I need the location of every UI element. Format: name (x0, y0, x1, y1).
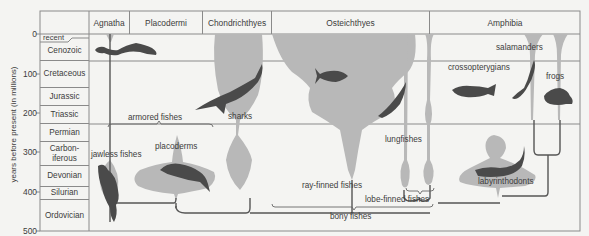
y-tick-400: 400 (23, 188, 37, 196)
group-chondrichthyes: Chondrichthyes (203, 11, 272, 34)
label-ray-finned-fishes: ray-finned fishes (302, 182, 362, 190)
y-tick-100: 100 (23, 70, 37, 78)
period-devonian: Devonian (40, 166, 89, 187)
label-lungfishes: lungfishes (385, 136, 422, 144)
label-bony-fishes: bony fishes (330, 213, 371, 221)
y-axis-label: years before present (in millions) (9, 50, 18, 200)
y-tick-500: 500 (23, 227, 37, 235)
period-jurassic: Jurassic (40, 88, 89, 106)
period-carboniferous: Carbon- iferous (40, 142, 89, 166)
label-jawless-fishes: jawless fishes (91, 151, 142, 159)
period-silurian: Silurian (40, 187, 89, 200)
y-tick-300: 300 (23, 148, 37, 156)
group-amphibia: Amphibia (430, 11, 580, 34)
period-triassic: Triassic (40, 106, 89, 124)
y-tick-0: 0 (32, 30, 37, 38)
frog-icon (544, 88, 573, 105)
crossopterygian-icon (452, 84, 496, 97)
period-ordovician: Ordovician (40, 200, 89, 231)
group-agnatha: Agnatha (89, 11, 130, 34)
label-lobe-finned-fishes: lobe-finned fishes (365, 196, 429, 204)
label-sharks: sharks (228, 113, 252, 121)
label-labyrinthodonts: labyrinthodonts (478, 178, 534, 186)
period-cretaceous: Cretaceous (40, 61, 89, 88)
label-frogs: frogs (546, 73, 564, 81)
lungfish-stem-2 (423, 34, 434, 185)
y-tick-200: 200 (23, 109, 37, 117)
period-recent: recent (40, 34, 89, 42)
lamprey-icon (95, 43, 157, 55)
period-permian: Permian (40, 124, 89, 142)
labyrinthodont-spindle (459, 135, 535, 198)
period-cenozoic: Cenozoic (40, 42, 89, 61)
group-placodermi: Placodermi (130, 11, 203, 34)
label-placoderms: placoderms (155, 143, 197, 151)
group-osteichthyes: Osteichthyes (272, 11, 430, 34)
label-armored-fishes: armored fishes (128, 114, 182, 122)
label-crossopterygians: crossopterygians (448, 64, 510, 72)
label-salamanders: salamanders (496, 44, 543, 52)
